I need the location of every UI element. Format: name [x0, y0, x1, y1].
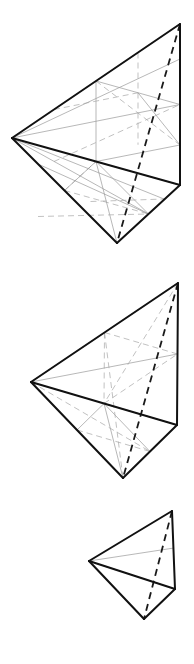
medium-edge-apex-to-right-lower: [177, 283, 178, 425]
tetrahedron-sequence-figure: [0, 0, 194, 664]
figure-root: [0, 0, 194, 664]
